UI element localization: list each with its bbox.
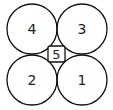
circle-1: 1: [57, 55, 107, 105]
center-box-5: 5: [48, 46, 65, 62]
circle-3-label: 3: [78, 21, 87, 37]
center-box-label: 5: [52, 47, 60, 62]
circle-4-label: 4: [28, 21, 37, 37]
circle-1-label: 1: [78, 72, 87, 88]
circle-2-label: 2: [28, 72, 37, 88]
circle-packing-diagram: 4 3 2 1 5: [0, 0, 113, 110]
